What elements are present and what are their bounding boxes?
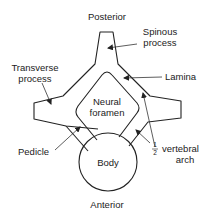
spinous-label-2: process [143,37,177,48]
transverse-label-2: process [18,73,52,84]
spinous-label-1: Spinous [143,26,178,37]
vertebra-diagram: Posterior Spinous process Transverse pro… [0,0,214,219]
pedicle-leader [55,127,80,150]
transverse-label-1: Transverse [11,62,58,73]
half-numerator: 1 [153,141,157,148]
vertebral-arch-label-1: vertebral [162,143,199,154]
neural-foramen-label-1: Neural [93,96,121,107]
vertebral-arch-outline [34,32,181,146]
half-arch-leader-1 [143,93,155,147]
vertebral-arch-label-2: arch [176,154,194,165]
pedicle-label: Pedicle [18,146,49,157]
half-arch-leader-2 [136,130,150,143]
half-denominator: 2 [153,149,157,156]
posterior-label: Posterior [88,11,126,22]
lamina-label: Lamina [165,71,197,82]
lamina-leader [124,77,162,78]
anterior-label: Anterior [90,199,123,210]
neural-foramen-label-2: foramen [90,107,125,118]
spinous-leader [108,44,137,48]
body-label: Body [97,157,119,168]
